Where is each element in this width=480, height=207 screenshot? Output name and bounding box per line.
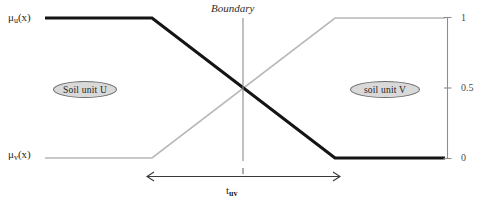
mu-arg-u: (x) [18, 11, 31, 23]
y-tick-label-0: 0 [461, 152, 466, 163]
boundary-label: Boundary [211, 3, 254, 14]
soil-unit-u-label: Soil unit U [53, 81, 117, 98]
membership-v-axis-label: μv(x) [8, 149, 31, 162]
mu-arg-v: (x) [18, 148, 31, 160]
transition-span-arrow [147, 168, 340, 181]
y-tick-label-1: 1 [461, 12, 466, 23]
soil-unit-v-label: soil unit V [350, 81, 420, 98]
t-subscript: uv [229, 189, 237, 198]
diagram-svg [0, 0, 480, 207]
membership-u-axis-label: μu(x) [8, 12, 31, 25]
y-tick-label-0-5: 0.5 [461, 82, 474, 93]
transition-width-label: tuv [226, 185, 238, 198]
figure-canvas: μu(x) μv(x) Boundary 1 0.5 0 Soil unit U… [0, 0, 480, 207]
